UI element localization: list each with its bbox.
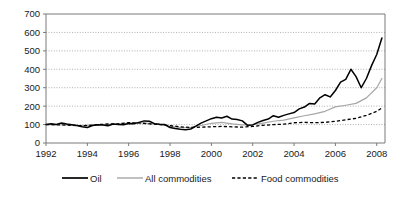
- y-tick-label-0: 0: [35, 137, 40, 148]
- chart-legend: Oil All commodities Food commodities: [62, 173, 339, 184]
- legend-label-all-commodities: All commodities: [145, 173, 212, 184]
- x-tick-label-1998: 1998: [159, 148, 180, 159]
- x-tick-label-1996: 1996: [118, 148, 139, 159]
- legend-label-oil: Oil: [90, 173, 102, 184]
- x-tick-label-2004: 2004: [283, 148, 304, 159]
- grid-lines: [46, 32, 385, 124]
- y-tick-label-500: 500: [24, 45, 40, 56]
- x-axis-ticks: 199219941996199820002002200420062008: [35, 143, 387, 159]
- axis-lines: [46, 14, 385, 143]
- x-tick-label-2006: 2006: [325, 148, 346, 159]
- y-tick-label-300: 300: [24, 82, 40, 93]
- x-tick-label-1994: 1994: [77, 148, 98, 159]
- y-tick-label-700: 700: [24, 8, 40, 19]
- y-tick-label-600: 600: [24, 27, 40, 38]
- x-tick-label-2000: 2000: [201, 148, 222, 159]
- y-tick-label-100: 100: [24, 119, 40, 130]
- chart-canvas: 0100200300400500600700 19921994199619982…: [0, 0, 401, 198]
- x-tick-label-1992: 1992: [35, 148, 56, 159]
- series-line-oil: [46, 38, 382, 130]
- y-tick-label-400: 400: [24, 64, 40, 75]
- data-series: [46, 38, 382, 130]
- x-tick-label-2002: 2002: [242, 148, 263, 159]
- series-line-all-commodities: [46, 79, 382, 128]
- legend-label-food-commodities: Food commodities: [261, 173, 339, 184]
- commodity-price-index-chart: 0100200300400500600700 19921994199619982…: [0, 0, 401, 198]
- y-tick-label-200: 200: [24, 101, 40, 112]
- x-tick-label-2008: 2008: [366, 148, 387, 159]
- y-axis-ticks: 0100200300400500600700: [24, 8, 46, 148]
